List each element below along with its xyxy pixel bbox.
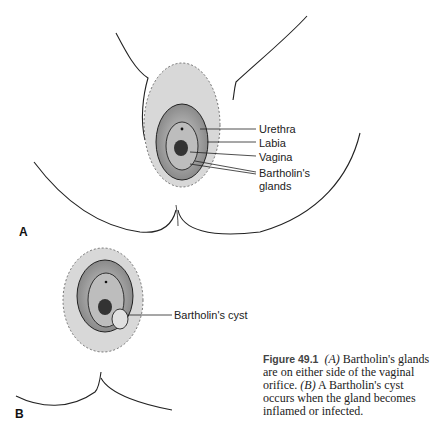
label-vagina: Vagina xyxy=(259,151,292,163)
panel-letter-b: B xyxy=(15,407,24,421)
panel-b-central-region xyxy=(63,248,143,352)
label-bartholins-glands-line1: Bartholin's xyxy=(259,167,310,179)
caption-marker-a: (A) xyxy=(324,352,339,366)
label-bartholins-cyst: Bartholin's cyst xyxy=(174,309,248,321)
figure-number: Figure 49.1 xyxy=(263,353,318,365)
cyst-shape xyxy=(112,309,128,329)
panel-b-drawing xyxy=(16,372,172,410)
label-labia: Labia xyxy=(259,137,286,149)
label-urethra: Urethra xyxy=(259,123,296,135)
panel-a-central-region xyxy=(144,63,220,187)
panel-letter-a: A xyxy=(19,225,28,239)
caption-marker-b: (B) xyxy=(300,378,315,392)
label-bartholins-glands-line2: glands xyxy=(259,180,291,192)
figure-caption: Figure 49.1 (A) Bartholin's glands are o… xyxy=(263,353,431,418)
